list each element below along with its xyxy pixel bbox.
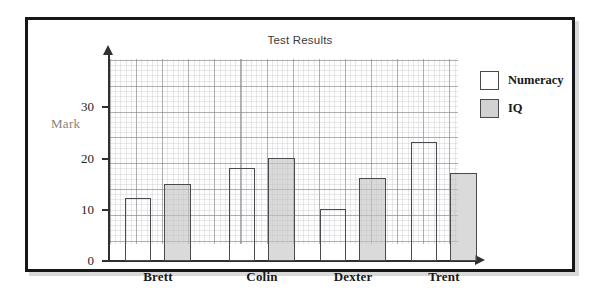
bar-dexter-iq — [359, 178, 386, 261]
bar-colin-iq — [268, 158, 295, 261]
bar-brett-numeracy — [125, 198, 151, 261]
chart-figure-frame: Test Results 30 20 10 0 Mark Brett Colin… — [25, 17, 575, 272]
category-label-colin: Colin — [217, 269, 307, 285]
y-axis-tick — [102, 209, 110, 211]
y-axis-tick-label: 20 — [58, 151, 94, 167]
y-axis-arrow-icon — [103, 45, 113, 55]
legend-swatch-numeracy-icon — [480, 71, 499, 90]
y-axis-name-label: Mark — [51, 116, 80, 132]
legend-label-iq: IQ — [508, 101, 523, 116]
bar-trent-numeracy — [411, 142, 437, 261]
bar-brett-iq — [164, 184, 191, 261]
legend-swatch-iq-icon — [480, 99, 499, 118]
bar-trent-iq — [450, 173, 477, 261]
bar-dexter-numeracy — [320, 209, 346, 261]
category-label-dexter: Dexter — [308, 269, 398, 285]
chart-legend: Numeracy IQ — [480, 69, 564, 125]
y-axis-tick — [102, 260, 110, 262]
y-axis-tick-label: 30 — [58, 99, 94, 115]
y-axis-tick-label: 0 — [58, 253, 94, 269]
legend-item-iq: IQ — [480, 97, 564, 119]
y-axis-tick — [102, 158, 110, 160]
category-label-brett: Brett — [113, 269, 203, 285]
y-axis-tick-label: 10 — [58, 202, 94, 218]
legend-item-numeracy: Numeracy — [480, 69, 564, 91]
bar-colin-numeracy — [229, 168, 255, 261]
legend-label-numeracy: Numeracy — [508, 73, 564, 88]
y-axis-tick — [102, 106, 110, 108]
category-label-trent: Trent — [399, 269, 489, 285]
